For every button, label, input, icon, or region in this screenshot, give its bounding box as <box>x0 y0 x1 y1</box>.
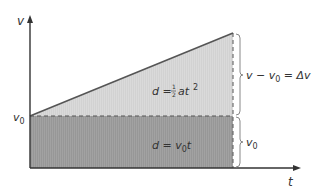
x-axis-arrow-icon <box>293 165 301 171</box>
rectangle-region <box>30 116 233 168</box>
x-axis-label: t <box>288 175 294 189</box>
lower-brace-label: v0 <box>246 136 258 151</box>
y-axis-arrow-icon <box>27 15 33 23</box>
svg-text:1: 1 <box>172 83 176 90</box>
upper-brace-label: v − v0 = Δv <box>246 69 311 84</box>
y-axis-label: v <box>17 14 25 28</box>
svg-text:2: 2 <box>193 83 198 92</box>
upper-brace-icon <box>236 34 243 115</box>
svg-text:2: 2 <box>172 91 176 98</box>
svg-text:at: at <box>178 85 190 98</box>
velocity-time-diagram: v t v0 d = 1 2 at 2 d = v0t v − v0 = Δv … <box>0 0 316 193</box>
v0-tick-label: v0 <box>13 111 25 126</box>
svg-text:d =: d = <box>152 85 172 98</box>
lower-brace-icon <box>236 117 243 167</box>
rectangle-formula: d = v0t <box>152 139 192 154</box>
